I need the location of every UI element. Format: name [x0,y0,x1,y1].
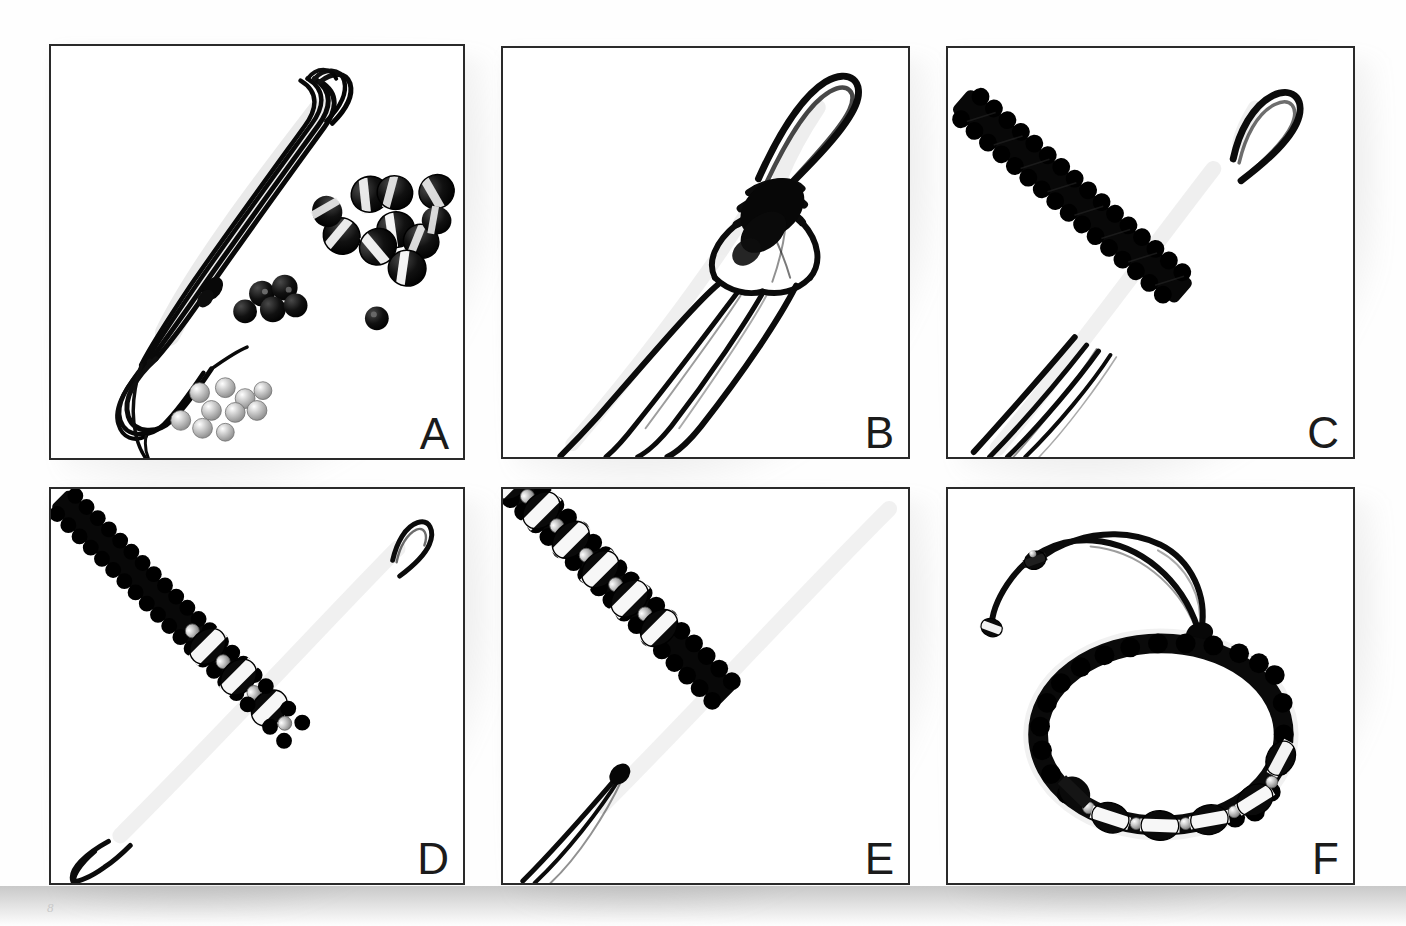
panel-label-c: C [1307,411,1339,455]
panel-c-scene [948,48,1353,457]
panel-label-a: A [420,412,449,456]
panel-c: C [946,46,1355,459]
figure-sheet: A [0,0,1406,926]
panel-d-scene [51,489,463,883]
panel-e-scene [503,489,908,883]
panel-a: A [49,44,465,460]
panel-f: F [946,487,1355,885]
panel-e: E [501,487,910,885]
page-number: 8 [47,900,54,916]
page-bottom-shadow [0,886,1406,926]
panel-label-f: F [1312,837,1339,881]
panel-a-scene [51,46,463,458]
panel-b-scene [503,48,908,457]
panel-d: D [49,487,465,885]
panel-label-e: E [865,837,894,881]
panel-b: B [501,46,910,459]
panel-f-scene [948,489,1353,883]
panel-label-b: B [865,411,894,455]
panel-label-d: D [417,837,449,881]
